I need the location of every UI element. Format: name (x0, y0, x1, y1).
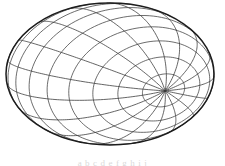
caption-strip: a b c d e f g h i j (0, 158, 225, 166)
figure-caption: a b c d e f g h i j (0, 159, 225, 166)
figure-container: a b c d e f g h i j (0, 0, 225, 166)
ellipse-mesh-figure (0, 0, 225, 166)
